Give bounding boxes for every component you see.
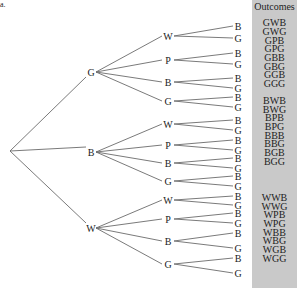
branch-line: [174, 181, 233, 186]
branch-line: [96, 72, 162, 101]
node-level2: B: [165, 236, 172, 247]
node-leaf: G: [234, 59, 241, 70]
branch-line: [174, 97, 233, 101]
branch-line: [174, 176, 233, 181]
branch-line: [174, 60, 233, 64]
node-leaf: B: [235, 21, 242, 32]
branch-line: [96, 60, 162, 72]
branch-line: [174, 158, 233, 163]
branch-line: [96, 72, 162, 82]
outcome-item: WGG: [252, 254, 297, 264]
node-level2: W: [163, 195, 173, 206]
branch-line: [174, 258, 233, 264]
outcome-item: GGG: [252, 79, 297, 89]
branch-line: [10, 147, 86, 151]
node-leaf: G: [234, 33, 241, 44]
outcomes-header: Outcomes: [252, 1, 297, 13]
branch-line: [174, 26, 233, 36]
node-level2: B: [165, 77, 172, 88]
branch-line: [174, 219, 233, 223]
branch-line: [174, 200, 233, 205]
node-level2: G: [164, 259, 171, 270]
node-leaf: G: [234, 268, 241, 279]
branch-line: [174, 264, 233, 273]
branch-line: [174, 163, 233, 168]
tree-diagram: GWBGPBGBBGGBGBWBGPBGBBGGBGWWBGPBGBBGGBG: [0, 0, 252, 288]
branch-line: [174, 53, 233, 60]
branch-line: [174, 213, 233, 219]
node-level1: W: [86, 223, 96, 234]
branch-line: [174, 233, 233, 241]
branch-line: [96, 228, 162, 264]
branch-line: [96, 228, 162, 241]
branch-line: [96, 124, 162, 152]
branch-line: [174, 140, 233, 145]
node-leaf: B: [235, 48, 242, 59]
branch-line: [10, 77, 86, 151]
branch-line: [174, 196, 233, 200]
node-level2: W: [163, 119, 173, 130]
branch-line: [174, 120, 233, 124]
node-level1: B: [88, 147, 95, 158]
branch-line: [96, 36, 162, 72]
outcomes-panel: Outcomes GWBGWGGPBGPGGBBGBGGGBGGGBWBBWGB…: [252, 0, 297, 288]
node-level2: P: [165, 140, 171, 151]
node-level2: W: [163, 31, 173, 42]
branch-line: [96, 152, 162, 181]
node-level2: B: [165, 158, 172, 169]
branch-line: [174, 82, 233, 88]
branch-line: [96, 152, 162, 163]
node-level2: G: [164, 176, 171, 187]
branch-line: [174, 145, 233, 150]
branch-line: [174, 241, 233, 248]
node-level2: P: [165, 214, 171, 225]
node-leaf: B: [235, 228, 242, 239]
node-level2: G: [164, 96, 171, 107]
node-leaf: G: [234, 102, 241, 113]
branch-line: [10, 151, 86, 223]
branch-line: [174, 124, 233, 130]
node-level1: G: [87, 67, 94, 78]
branch-line: [96, 145, 162, 152]
branch-line: [174, 36, 233, 38]
node-leaf: B: [235, 253, 242, 264]
node-level2: P: [165, 55, 171, 66]
branch-line: [174, 101, 233, 107]
branch-line: [174, 78, 233, 82]
outcome-item: BGG: [252, 157, 297, 167]
